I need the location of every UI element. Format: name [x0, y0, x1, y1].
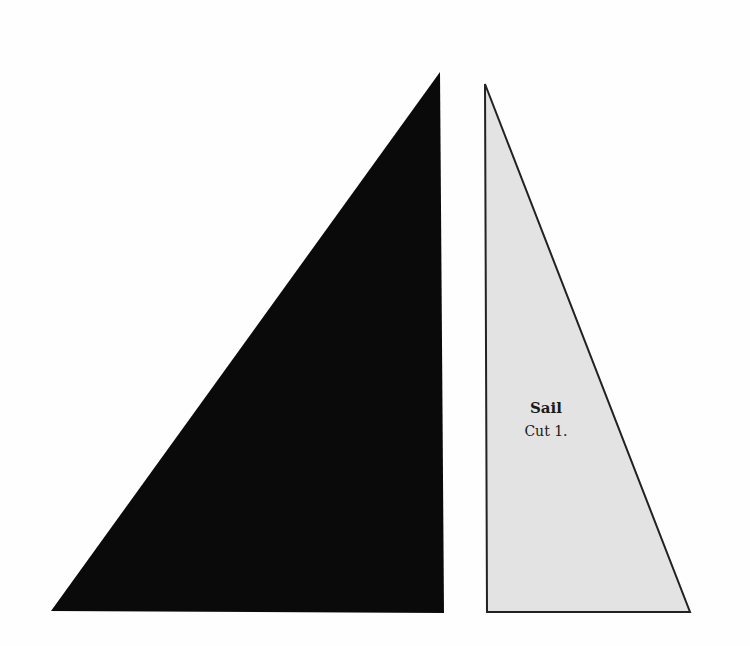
pattern-canvas: Sail Cut 1.	[0, 0, 750, 646]
pattern-shapes	[0, 0, 750, 646]
sail-title: Sail	[486, 399, 606, 417]
sail-piece	[485, 84, 690, 612]
sail-cut-instruction: Cut 1.	[486, 423, 606, 439]
dark-triangle-piece	[51, 72, 444, 613]
